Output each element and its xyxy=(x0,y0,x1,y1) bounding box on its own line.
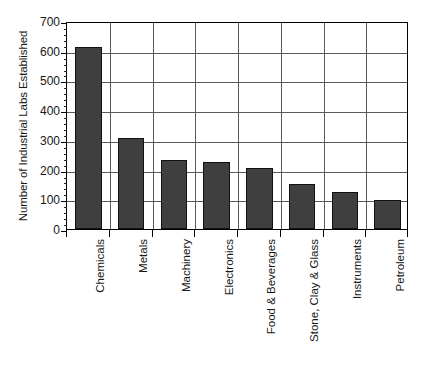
y-tick-major xyxy=(61,82,67,83)
vertical-gridline xyxy=(238,23,239,229)
plot-area xyxy=(66,22,408,230)
y-tick-label: 300 xyxy=(30,135,60,147)
y-tick-minor xyxy=(64,124,68,125)
y-tick-minor xyxy=(64,100,68,101)
bar xyxy=(374,200,401,229)
bar xyxy=(161,160,188,229)
vertical-gridline xyxy=(153,23,154,229)
y-tick-major xyxy=(61,23,67,24)
y-tick-minor xyxy=(64,195,68,196)
y-tick-minor xyxy=(64,59,68,60)
y-tick-minor xyxy=(64,65,68,66)
horizontal-gridline xyxy=(67,112,407,113)
y-tick-minor xyxy=(64,178,68,179)
x-axis-ticks xyxy=(66,230,408,237)
y-tick-minor xyxy=(64,219,68,220)
y-tick-minor xyxy=(64,154,68,155)
x-tick xyxy=(109,230,110,237)
vertical-gridline xyxy=(195,23,196,229)
x-tick-label: Petroleum xyxy=(393,239,407,365)
y-tick-minor xyxy=(64,35,68,36)
y-tick-minor xyxy=(64,94,68,95)
y-tick-minor xyxy=(64,213,68,214)
x-tick xyxy=(280,230,281,237)
bar xyxy=(118,138,145,229)
y-tick-minor xyxy=(64,88,68,89)
x-tick xyxy=(407,230,408,237)
y-tick-minor xyxy=(64,29,68,30)
y-tick-label: 200 xyxy=(30,165,60,177)
horizontal-gridline xyxy=(67,53,407,54)
bar-chart: Number of Industrial Labs Established 01… xyxy=(0,0,438,371)
y-tick-minor xyxy=(64,47,68,48)
vertical-gridline xyxy=(281,23,282,229)
y-tick-label: 600 xyxy=(30,46,60,58)
y-tick-label: 500 xyxy=(30,75,60,87)
bar xyxy=(289,184,316,229)
y-tick-minor xyxy=(64,76,68,77)
x-tick xyxy=(323,230,324,237)
y-tick-major xyxy=(61,53,67,54)
y-tick-minor xyxy=(64,71,68,72)
y-axis-tick-labels: 0100200300400500600700 xyxy=(30,0,60,371)
x-tick-label: Stone, Clay & Glass xyxy=(307,239,321,365)
bar xyxy=(246,168,273,229)
x-tick xyxy=(152,230,153,237)
vertical-gridline xyxy=(324,23,325,229)
y-tick-major xyxy=(61,142,67,143)
bar xyxy=(332,192,359,229)
x-axis-tick-labels: ChemicalsMetalsMachineryElectronicsFood … xyxy=(66,239,408,367)
y-tick-label: 400 xyxy=(30,105,60,117)
y-tick-minor xyxy=(64,166,68,167)
y-tick-minor xyxy=(64,130,68,131)
y-tick-major xyxy=(61,172,67,173)
y-tick-major xyxy=(61,201,67,202)
y-tick-minor xyxy=(64,183,68,184)
y-tick-label: 700 xyxy=(30,16,60,28)
y-tick-minor xyxy=(64,106,68,107)
y-tick-major xyxy=(61,112,67,113)
y-tick-minor xyxy=(64,207,68,208)
x-tick-label: Machinery xyxy=(179,239,193,365)
x-tick xyxy=(194,230,195,237)
x-tick xyxy=(237,230,238,237)
horizontal-gridline xyxy=(67,82,407,83)
x-tick xyxy=(66,230,67,237)
y-tick-minor xyxy=(64,160,68,161)
bar xyxy=(203,162,230,229)
y-tick-minor xyxy=(64,189,68,190)
vertical-gridline xyxy=(110,23,111,229)
y-tick-minor xyxy=(64,41,68,42)
y-tick-minor xyxy=(64,118,68,119)
x-tick-label: Electronics xyxy=(222,239,236,365)
x-tick-label: Food & Beverages xyxy=(264,239,278,365)
vertical-gridline xyxy=(366,23,367,229)
x-tick-label: Metals xyxy=(136,239,150,365)
y-tick-label: 100 xyxy=(30,194,60,206)
y-tick-minor xyxy=(64,136,68,137)
bar xyxy=(75,47,102,229)
x-tick xyxy=(365,230,366,237)
x-tick-label: Chemicals xyxy=(93,239,107,365)
y-tick-minor xyxy=(64,225,68,226)
y-tick-minor xyxy=(64,148,68,149)
y-tick-label: 0 xyxy=(30,224,60,236)
x-tick-label: Instruments xyxy=(350,239,364,365)
